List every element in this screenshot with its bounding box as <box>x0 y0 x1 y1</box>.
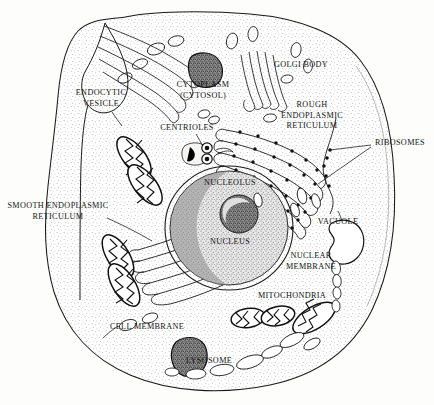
cell-diagram: ENDOCYTIC VESICLE CYTOPLASM (CYTOSOL) GO… <box>0 0 434 405</box>
label-nucleus: NUCLEUS <box>200 237 260 248</box>
label-cell-membrane: CELL MEMBRANE <box>104 322 190 333</box>
label-nucleolus: NUCLEOLUS <box>196 178 264 189</box>
label-nuclear-membrane: NUCLEAR MEMBRANE <box>280 251 342 272</box>
label-golgi-body: GOLGI BODY <box>268 60 334 71</box>
label-rough-endoplasmic-reticulum: ROUGH ENDOPLASMIC RETICULUM <box>275 100 349 132</box>
label-centrioles: CENTRIOLES <box>156 123 218 134</box>
label-lysosome: LYSOSOME <box>186 356 244 367</box>
label-ribosomes: RIBOSOMES <box>375 138 433 149</box>
label-smooth-endoplasmic-reticulum: SMOOTH ENDOPLASMIC RETICULUM <box>6 201 110 222</box>
label-cytoplasm: CYTOPLASM (CYTOSOL) <box>160 80 246 101</box>
label-endocytic-vesicle: ENDOCYTIC VESICLE <box>62 88 140 109</box>
label-mitochondria: MITOCHONDRIA <box>253 291 331 302</box>
label-vacuole: VACUOLE <box>312 217 364 228</box>
